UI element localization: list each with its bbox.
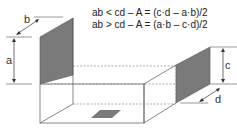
label-b: b (24, 13, 30, 25)
right-shaded-panel (176, 47, 210, 103)
left-shaded-panel (40, 18, 73, 84)
label-a: a (6, 54, 12, 66)
label-c: c (225, 59, 231, 71)
formula-ab-less-than-cd: ab < cd – A = (c·d – a·b)/2 (92, 7, 208, 18)
formula-ab-greater-than-cd: ab > cd – A = (a·b – c·d)/2 (92, 19, 208, 30)
floor-patch (91, 110, 121, 118)
label-d: d (215, 93, 221, 105)
